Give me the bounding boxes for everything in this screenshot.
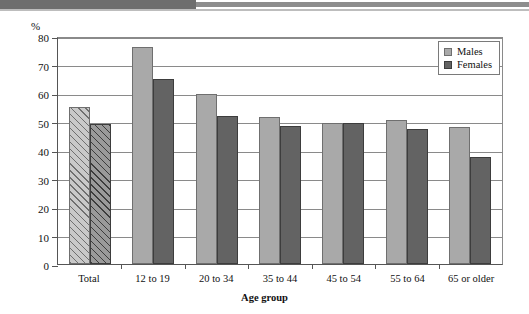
bar-males-65-or-older [449,127,470,264]
bar-chart: % 01020304050607080 Total12 to 1920 to 3… [0,11,529,314]
x-tick [312,264,313,269]
bar-females-65-or-older [470,157,491,264]
bar-males-45-to-54 [322,123,343,264]
x-category-label: 12 to 19 [135,273,169,284]
x-category-label: 20 to 34 [199,273,233,284]
bar-group [121,38,184,264]
bar-females-55-to-64 [407,129,428,264]
x-tick [248,264,249,269]
y-tick-label-10: 10 [38,232,49,244]
x-tick [185,264,186,269]
x-category-label: 55 to 64 [390,273,424,284]
y-tick-label-40: 40 [38,146,49,158]
bar-females-45-to-54 [343,123,364,264]
bar-females-total [90,124,111,264]
top-banner [0,0,529,11]
y-tick-label-70: 70 [38,61,49,73]
y-tick-label-20: 20 [38,203,49,215]
bar-females-35-to-44 [280,126,301,264]
bar-group [312,38,375,264]
legend-swatch-males-icon [444,48,452,56]
legend-label-females: Females [457,59,492,70]
bar-males-55-to-64 [386,120,407,264]
bar-males-12-to-19 [132,47,153,264]
bar-group [248,38,311,264]
y-tick-label-0: 0 [44,260,50,272]
legend-item-males: Males [444,45,492,58]
x-tick [121,264,122,269]
y-tick-label-60: 60 [38,89,49,101]
chart-legend: Males Females [438,41,500,75]
bar-group [58,38,121,264]
bar-females-12-to-19 [153,79,174,264]
x-category-label: 65 or older [448,273,494,284]
bar-group [375,38,438,264]
y-tick-0 [52,266,58,267]
y-tick-label-50: 50 [38,118,49,130]
banner-light-line [196,2,529,7]
legend-swatch-females-icon [444,61,452,69]
bar-group [185,38,248,264]
y-tick-label-80: 80 [38,32,49,44]
bar-females-20-to-34 [217,116,238,264]
x-tick [439,264,440,269]
x-category-label: 45 to 54 [326,273,360,284]
legend-label-males: Males [457,46,483,57]
y-axis-unit-label: % [31,20,40,32]
x-category-label: Total [78,273,99,284]
legend-item-females: Females [444,58,492,71]
bar-groups [58,38,502,264]
bar-males-20-to-34 [196,94,217,264]
bar-males-total [69,107,90,264]
x-tick [375,264,376,269]
x-axis-title: Age group [0,292,529,303]
y-tick-label-30: 30 [38,175,49,187]
x-category-label: 35 to 44 [263,273,297,284]
plot-area: 01020304050607080 [57,37,503,265]
bar-males-35-to-44 [259,117,280,264]
